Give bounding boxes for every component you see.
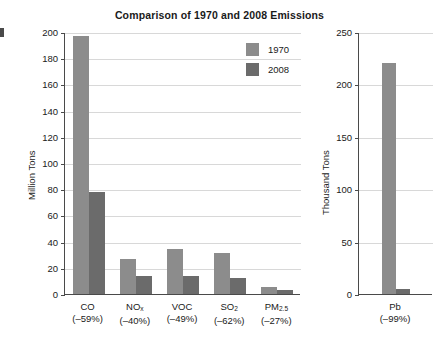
y-axis-tick (61, 59, 65, 60)
gridline (359, 190, 433, 191)
page-edge-artifact (0, 28, 4, 37)
y-axis-tick-label: 160 (30, 79, 58, 90)
y-axis-tick (61, 190, 65, 191)
bar-NOx-2008 (136, 276, 152, 294)
y-axis-tick-label: 0 (30, 289, 58, 300)
y-axis-tick-label: 200 (30, 27, 58, 38)
bar-PM2.5-1970 (261, 287, 277, 294)
gridline (65, 138, 301, 139)
y-axis-tick (61, 138, 65, 139)
y-axis-tick-label: 80 (30, 184, 58, 195)
bar-PM2.5-2008 (277, 290, 293, 294)
legend-label-1970: 1970 (268, 44, 289, 55)
y-axis-tick (355, 295, 359, 296)
x-axis-label-PM2.5: PM2.5(–27%) (242, 301, 310, 327)
legend-swatch-1970-icon (246, 43, 259, 56)
y-axis-tick (61, 243, 65, 244)
y-axis-tick (61, 295, 65, 296)
gridline (65, 85, 301, 86)
gridline (359, 85, 433, 86)
y-axis-tick-label: 100 (30, 158, 58, 169)
right-plot-area (358, 33, 432, 295)
y-axis-tick (355, 243, 359, 244)
y-axis-tick (61, 33, 65, 34)
gridline (359, 138, 433, 139)
y-axis-tick-label: 120 (30, 132, 58, 143)
gridline (65, 112, 301, 113)
gridline (359, 33, 433, 34)
y-axis-tick-label: 180 (30, 53, 58, 64)
bar-VOC-1970 (167, 249, 183, 294)
y-axis-tick-label: 20 (30, 263, 58, 274)
legend-label-2008: 2008 (268, 64, 289, 75)
bar-CO-1970 (73, 36, 89, 294)
legend-item-2008: 2008 (246, 62, 289, 77)
y-axis-tick (355, 85, 359, 86)
bar-SO2-1970 (214, 253, 230, 294)
gridline (359, 243, 433, 244)
y-axis-tick (355, 138, 359, 139)
y-axis-tick-label: 250 (324, 27, 352, 38)
x-axis-label-Pb: Pb(–99%) (361, 301, 429, 325)
y-axis-tick (61, 112, 65, 113)
y-axis-tick-label: 200 (324, 79, 352, 90)
y-axis-tick-label: 50 (324, 237, 352, 248)
y-axis-tick (61, 269, 65, 270)
y-axis-tick (61, 216, 65, 217)
y-axis-tick-label: 140 (30, 106, 58, 117)
y-axis-tick (355, 190, 359, 191)
y-axis-tick (61, 85, 65, 86)
y-axis-tick-label: 150 (324, 132, 352, 143)
bar-Pb-1970 (382, 63, 396, 294)
gridline (65, 33, 301, 34)
y-axis-tick (61, 164, 65, 165)
gridline (65, 164, 301, 165)
legend-swatch-2008-icon (246, 63, 259, 76)
bar-CO-2008 (89, 192, 105, 294)
right-y-axis-title: Thousand Tons (320, 150, 331, 215)
y-axis-tick-label: 60 (30, 210, 58, 221)
legend: 1970 2008 (246, 42, 289, 82)
y-axis-tick-label: 40 (30, 237, 58, 248)
y-axis-tick-label: 0 (324, 289, 352, 300)
chart-title: Comparison of 1970 and 2008 Emissions (0, 9, 439, 21)
bar-SO2-2008 (230, 278, 246, 294)
bar-Pb-2008 (396, 289, 410, 294)
legend-item-1970: 1970 (246, 42, 289, 57)
bar-VOC-2008 (183, 276, 199, 294)
y-axis-tick-label: 100 (324, 184, 352, 195)
bar-NOx-1970 (120, 259, 136, 294)
y-axis-tick (355, 33, 359, 34)
